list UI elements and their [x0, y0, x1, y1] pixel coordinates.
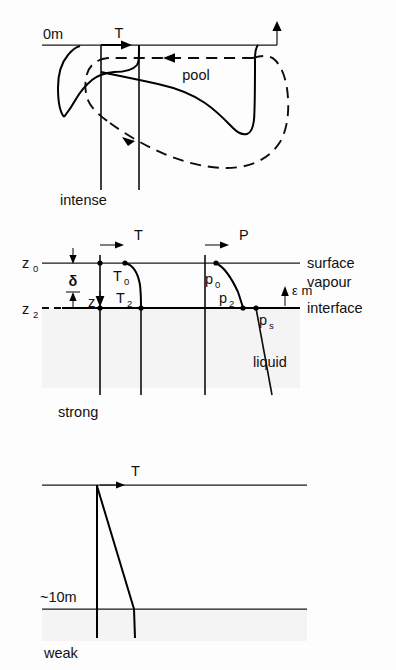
figure-container: T 0m pool intense [0, 0, 396, 670]
pressure-axis-label: P [239, 227, 249, 243]
depth-surface-label: z [22, 255, 29, 271]
linear-temperature-profile [97, 486, 134, 609]
region-vapour-label: vapour [307, 274, 352, 290]
panel-strong: z 0 z 2 δ z T P [0, 215, 396, 430]
deep-region-tint [42, 609, 307, 641]
marker-interface-axis-T [97, 305, 102, 310]
marker-ps [253, 305, 258, 310]
temperature-axis-label: T [115, 25, 124, 41]
linear-temperature-profile-tail [134, 609, 135, 638]
pool-region-label: pool [182, 67, 209, 83]
temperature-axis-arrowhead [115, 241, 124, 248]
panel-weak-caption: weak [43, 645, 79, 661]
region-liquid-label: liquid [253, 354, 287, 370]
pressure-interface-label: p [219, 290, 227, 306]
marker-p2 [240, 305, 245, 310]
marker-p0 [213, 260, 218, 265]
depth-interface-label: z [22, 301, 29, 317]
region-surface-label: surface [307, 255, 355, 271]
panel-weak: T ~10m weak [0, 430, 396, 670]
pressure-axis-arrowhead [220, 241, 229, 248]
panel-intense-caption: intense [60, 192, 107, 208]
pressure-saturation-sub: s [269, 320, 274, 331]
temperature-axis-arrowhead [116, 481, 125, 488]
pressure-surface-sub: 0 [215, 279, 220, 290]
marker-T2 [138, 305, 143, 310]
region-interface-label: interface [307, 300, 363, 316]
panel-strong-caption: strong [58, 404, 98, 420]
temperature-axis-arrowhead [121, 41, 132, 50]
marker-surface-axis-T [97, 260, 102, 265]
layer-thickness-label: δ [69, 273, 78, 289]
temperature-surface-label: T [113, 268, 122, 284]
pressure-interface-sub: 2 [229, 298, 234, 309]
temperature-surface-sub: 0 [124, 276, 129, 287]
marker-T0 [122, 260, 127, 265]
temperature-interface-sub: 2 [127, 298, 132, 309]
evaporation-arrow-head [281, 286, 289, 296]
depth-origin-label: 0m [43, 26, 63, 42]
pressure-surface-label: p [205, 271, 213, 287]
depth-variable-label: z [88, 294, 95, 310]
depth-surface-sub: 0 [33, 263, 38, 274]
plume-curve-left-lower [58, 46, 80, 117]
delta-arrow-bottom-head [69, 292, 76, 301]
temperature-axis-label: T [134, 227, 143, 243]
panel-intense: T 0m pool intense [0, 0, 396, 215]
depth-scale-label: ~10m [40, 589, 77, 605]
temperature-axis-label: T [131, 463, 140, 479]
depth-interface-sub: 2 [33, 309, 38, 320]
pressure-saturation-label: p [259, 312, 267, 328]
circulation-loop-left [85, 58, 110, 123]
temperature-interface-label: T [116, 290, 125, 306]
circulation-arrow-left [163, 53, 175, 63]
upward-flow-arrow-head [272, 21, 281, 31]
